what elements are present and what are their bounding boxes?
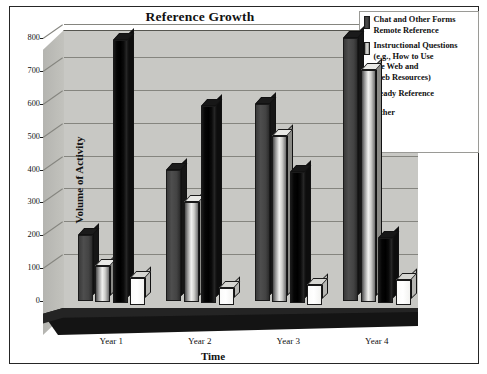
- bar-side-face: [128, 29, 134, 298]
- bar-year-3-series-0[interactable]: [255, 104, 270, 301]
- y-tick-mark: [40, 268, 43, 269]
- bar-front-face: [255, 104, 270, 301]
- bar-front-face: [78, 235, 93, 301]
- y-tick-mark: [40, 137, 43, 138]
- bar-front-face: [95, 266, 110, 302]
- y-tick-label: 200: [14, 231, 40, 239]
- x-tick-label-year-2: Year 2: [174, 336, 226, 346]
- bar-front-face: [290, 172, 305, 304]
- bar-front-face: [201, 106, 216, 303]
- bar-year-2-series-3[interactable]: [219, 288, 234, 304]
- x-tick-label-year-3: Year 3: [262, 336, 314, 346]
- bar-front-face: [130, 278, 145, 304]
- bar-front-face: [166, 170, 181, 302]
- bar-front-face: [307, 285, 322, 305]
- y-tick-mark: [40, 71, 43, 72]
- legend-label: Ready Reference: [374, 89, 435, 100]
- y-tick-label: 0: [14, 297, 40, 305]
- x-axis-title: Time: [43, 350, 383, 362]
- bar-side-face: [305, 160, 311, 297]
- y-tick-label: 100: [14, 264, 40, 272]
- swatch-light-gray-icon: [364, 42, 370, 55]
- legend-label: Chat and Other FormsRemote Reference: [374, 15, 456, 36]
- bar-year-1-series-0[interactable]: [78, 235, 93, 301]
- bar-year-1-series-1[interactable]: [95, 266, 110, 302]
- y-tick-label: 800: [14, 34, 40, 42]
- y-axis-ticks: 0100200300400500600700800: [12, 24, 40, 334]
- bar-front-face: [272, 136, 287, 302]
- y-tick-mark: [40, 38, 43, 39]
- y-tick-mark: [40, 104, 43, 105]
- bar-year-4-series-1[interactable]: [361, 70, 376, 302]
- bar-year-1-series-2[interactable]: [113, 40, 128, 303]
- y-tick-label: 700: [14, 67, 40, 75]
- y-tick-mark: [40, 170, 43, 171]
- y-tick-label: 300: [14, 198, 40, 206]
- x-tick-label-year-1: Year 1: [85, 336, 137, 346]
- bar-year-4-series-2[interactable]: [378, 238, 393, 304]
- x-tick-label-year-4: Year 4: [351, 336, 403, 346]
- bar-year-3-series-3[interactable]: [307, 285, 322, 305]
- bar-year-2-series-2[interactable]: [201, 106, 216, 303]
- chart-left-wall: [43, 30, 64, 335]
- y-tick-label: 600: [14, 100, 40, 108]
- bar-front-face: [219, 288, 234, 304]
- plot-area: Volume of Activity: [43, 24, 418, 334]
- bar-front-face: [361, 70, 376, 302]
- bar-year-4-series-0[interactable]: [343, 38, 358, 301]
- y-tick-label: 400: [14, 166, 40, 174]
- y-tick-label: 500: [14, 133, 40, 141]
- swatch-dark-gray-icon: [364, 16, 370, 29]
- x-axis-ticks: Year 1Year 2Year 3Year 4: [43, 336, 418, 350]
- chart-title: Reference Growth: [40, 9, 360, 25]
- y-tick-mark: [40, 235, 43, 236]
- bar-year-2-series-0[interactable]: [166, 170, 181, 302]
- bar-front-face: [184, 202, 199, 302]
- bar-side-face: [216, 94, 222, 297]
- legend-label: Instructional Questions(e.g., How to Use…: [374, 41, 458, 83]
- bar-front-face: [113, 40, 128, 303]
- bar-front-face: [396, 280, 411, 305]
- bar-year-4-series-3[interactable]: [396, 280, 411, 305]
- legend-entry-0[interactable]: Chat and Other FormsRemote Reference: [364, 15, 475, 36]
- bar-front-face: [343, 38, 358, 301]
- y-tick-mark: [40, 301, 43, 302]
- bar-front-face: [378, 238, 393, 304]
- bar-year-1-series-3[interactable]: [130, 278, 145, 304]
- y-tick-mark: [40, 202, 43, 203]
- bar-year-2-series-1[interactable]: [184, 202, 199, 302]
- bar-year-3-series-2[interactable]: [290, 172, 305, 304]
- screenshot-frame: Reference Growth Volume of Activity 0100…: [0, 0, 487, 374]
- bar-year-3-series-1[interactable]: [272, 136, 287, 302]
